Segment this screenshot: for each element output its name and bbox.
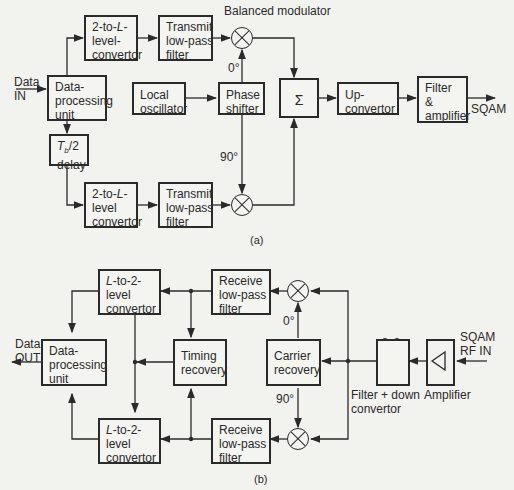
filter-down-convertor-label: Filter + down convertor — [351, 388, 420, 416]
amplifier-label: Amplifier — [424, 388, 471, 402]
tx-phase-shifter: Phase shifter — [218, 82, 265, 115]
tx-2-to-l-level-convertor-bottom: 2-to-L- level convertor — [84, 182, 138, 228]
caption-b: (b) — [254, 473, 267, 485]
tx-summer-sigma: Σ — [279, 78, 319, 118]
rx-mixer-bottom-icon — [287, 428, 309, 450]
tx-filter-amplifier: Filter & amplifier — [417, 76, 468, 123]
tx-upconvertor: Up- convertor — [337, 82, 399, 115]
sqam-rf-in-label: SQAM RF IN — [460, 330, 495, 358]
tx-transmit-lowpass-filter-top: Transmit low-pass filter — [158, 15, 213, 61]
sqam-output-label: SQAM — [471, 102, 506, 116]
phase-90-label-a: 90° — [220, 150, 238, 164]
data-in-label: Data IN — [14, 75, 39, 103]
phase-90-label-b: 90° — [276, 392, 294, 406]
rx-receive-lowpass-filter-top: Receive low-pass filter — [211, 269, 271, 315]
tx-data-processing-unit: Data- processing unit — [47, 75, 107, 121]
tx-transmit-lowpass-filter-bottom: Transmit low-pass filter — [158, 182, 213, 228]
phase-0-label-b: 0° — [283, 314, 294, 328]
rx-filter-downconvertor-block — [376, 339, 410, 386]
rx-mixer-top-icon — [287, 280, 309, 302]
balanced-modulator-bottom-mixer-icon — [231, 194, 253, 216]
tx-tb-half-delay: Tb/2 delay — [49, 134, 89, 166]
tx-local-oscillator: Local oscillator — [132, 82, 186, 115]
phase-0-label-a: 0° — [228, 61, 239, 75]
rx-data-processing-unit: Data- processing unit — [41, 339, 107, 386]
rx-receive-lowpass-filter-bottom: Receive low-pass filter — [211, 418, 271, 464]
balanced-modulator-top-mixer-icon — [231, 27, 253, 49]
rx-l-to-2-level-convertor-bottom: L-to-2- level convertor — [98, 418, 161, 464]
rx-carrier-recovery: Carrier recovery — [266, 339, 321, 386]
caption-a: (a) — [250, 234, 263, 246]
rx-amplifier-block — [426, 339, 455, 386]
rx-timing-recovery: Timing recovery — [173, 339, 227, 386]
balanced-modulator-label: Balanced modulator — [224, 4, 331, 18]
data-out-label: Data OUT — [15, 337, 40, 365]
rx-l-to-2-level-convertor-top: L-to-2- level convertor — [98, 269, 161, 315]
tx-2-to-l-level-convertor-top: 2-to-L- level- convertor — [84, 15, 138, 61]
